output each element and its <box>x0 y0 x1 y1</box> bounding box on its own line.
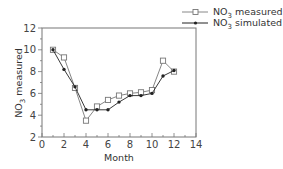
data-point <box>172 69 175 72</box>
series-simulated <box>51 48 175 111</box>
filled-circle-marker-icon <box>194 21 197 24</box>
data-point <box>139 94 142 97</box>
svg-text:NO3 simulated: NO3 simulated <box>213 17 282 31</box>
y-tick-label: 6 <box>30 88 36 99</box>
x-tick-label: 4 <box>83 139 89 150</box>
data-point <box>117 100 120 103</box>
open-square-marker-icon <box>193 10 198 15</box>
data-point <box>51 48 54 51</box>
x-tick-label: 2 <box>61 139 67 150</box>
y-axis-title: NO3 measured <box>13 48 27 118</box>
data-point <box>106 108 109 111</box>
data-point <box>116 93 121 98</box>
x-tick-label: 6 <box>105 139 111 150</box>
data-point <box>95 108 98 111</box>
data-point <box>62 68 65 71</box>
x-tick-label: 12 <box>168 139 181 150</box>
x-tick-label: 10 <box>146 139 159 150</box>
data-point <box>61 55 66 60</box>
legend: NO3 measured NO3 simulated <box>182 6 283 31</box>
data-point <box>161 74 164 77</box>
data-point <box>84 108 87 111</box>
data-point <box>105 97 110 102</box>
data-point <box>150 92 153 95</box>
x-tick-label: 8 <box>127 139 133 150</box>
line-chart: 24681012 02468101214 Month NO3 measured … <box>0 0 283 169</box>
y-tick-label: 12 <box>23 23 36 34</box>
data-point <box>83 118 88 123</box>
data-point <box>128 94 131 97</box>
y-tick-label: 8 <box>30 66 36 77</box>
data-point <box>160 58 165 63</box>
y-tick-label: 2 <box>30 132 36 143</box>
y-tick-label: 4 <box>30 110 36 121</box>
legend-item-simulated: NO3 simulated <box>182 17 282 31</box>
x-axis-title: Month <box>104 152 134 163</box>
plot-frame <box>42 28 196 137</box>
y-axis-ticks: 24681012 <box>23 23 42 143</box>
data-series <box>50 47 176 123</box>
data-point <box>73 85 76 88</box>
x-tick-label: 0 <box>39 139 45 150</box>
y-tick-label: 10 <box>23 44 36 55</box>
x-axis-ticks: 02468101214 <box>39 133 203 150</box>
x-tick-label: 14 <box>190 139 203 150</box>
